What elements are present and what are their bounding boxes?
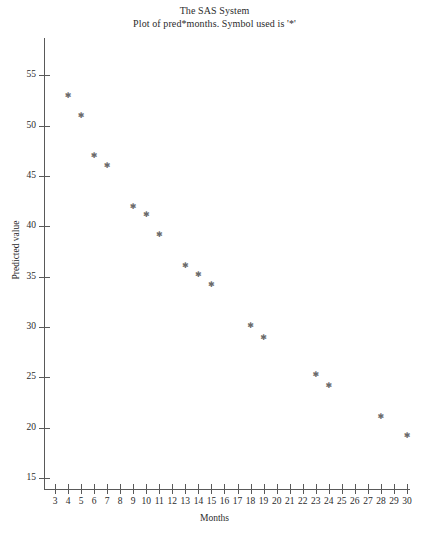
- x-tick-mark: [316, 484, 317, 494]
- x-tick-mark: [277, 484, 278, 494]
- x-tick-mark: [107, 484, 108, 494]
- y-tick-label: 55: [6, 70, 36, 80]
- x-tick-mark: [224, 484, 225, 494]
- x-tick-mark: [68, 484, 69, 494]
- y-tick-label: 50: [6, 121, 36, 131]
- x-tick-mark: [133, 484, 134, 494]
- data-point: [208, 281, 215, 288]
- y-tick-mark: [39, 377, 50, 378]
- x-tick-mark: [264, 484, 265, 494]
- y-tick-label: 30: [6, 322, 36, 332]
- data-point: [143, 211, 150, 218]
- x-tick-mark: [81, 484, 82, 494]
- x-tick-mark: [407, 484, 408, 494]
- data-point: [325, 382, 332, 389]
- data-point: [78, 112, 85, 119]
- data-point: [65, 92, 72, 99]
- data-point: [130, 203, 137, 210]
- y-tick-label: 15: [6, 473, 36, 483]
- x-tick-mark: [146, 484, 147, 494]
- sas-plot-page: The SAS System Plot of pred*months. Symb…: [0, 0, 429, 542]
- y-tick-label: 45: [6, 171, 36, 181]
- data-point: [156, 231, 163, 238]
- data-point: [377, 413, 384, 420]
- y-tick-mark: [39, 176, 50, 177]
- x-tick-mark: [94, 484, 95, 494]
- x-tick-mark: [159, 484, 160, 494]
- y-tick-mark: [39, 75, 50, 76]
- x-tick-mark: [198, 484, 199, 494]
- y-tick-mark: [39, 126, 50, 127]
- x-tick-mark: [355, 484, 356, 494]
- x-tick-mark: [303, 484, 304, 494]
- y-tick-mark: [39, 226, 50, 227]
- x-tick-mark: [342, 484, 343, 494]
- data-point: [247, 322, 254, 329]
- x-axis-title: Months: [0, 513, 429, 523]
- y-tick-label: 25: [6, 372, 36, 382]
- data-point: [104, 162, 111, 169]
- x-tick-mark: [381, 484, 382, 494]
- x-tick-mark: [368, 484, 369, 494]
- data-point: [404, 432, 411, 439]
- data-point: [91, 152, 98, 159]
- y-axis-line: [44, 38, 45, 490]
- y-tick-label: 20: [6, 423, 36, 433]
- y-tick-mark: [39, 277, 50, 278]
- x-tick-mark: [120, 484, 121, 494]
- data-point: [260, 334, 267, 341]
- data-point: [312, 371, 319, 378]
- y-tick-mark: [39, 327, 50, 328]
- x-tick-mark: [172, 484, 173, 494]
- x-tick-mark: [329, 484, 330, 494]
- x-tick-mark: [238, 484, 239, 494]
- x-tick-mark: [394, 484, 395, 494]
- x-tick-mark: [251, 484, 252, 494]
- x-tick-mark: [185, 484, 186, 494]
- x-tick-mark: [290, 484, 291, 494]
- y-tick-mark: [39, 428, 50, 429]
- x-tick-mark: [55, 484, 56, 494]
- x-tick-mark: [211, 484, 212, 494]
- data-point: [195, 271, 202, 278]
- y-axis-title: Predicted value: [11, 190, 21, 310]
- y-tick-mark: [39, 478, 50, 479]
- plot-area: 152025303540455055 345678910111213141516…: [0, 0, 429, 542]
- x-tick-label: 30: [397, 496, 417, 506]
- data-point: [182, 262, 189, 269]
